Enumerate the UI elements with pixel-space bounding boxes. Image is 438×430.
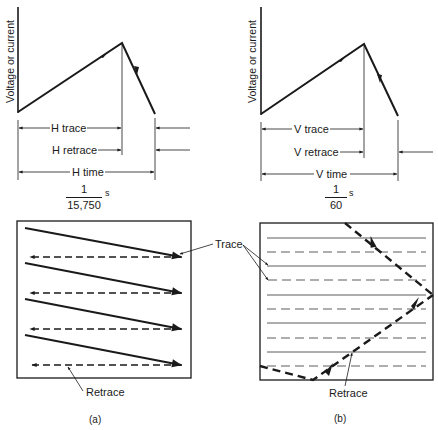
caption-a: (a)	[88, 414, 102, 426]
fraction-bar	[66, 197, 102, 198]
fraction-denominator: 60	[325, 199, 347, 212]
v-trace-label: V trace	[293, 123, 330, 135]
fraction-denominator: 15,750	[66, 199, 102, 212]
v-time-label: V time	[315, 168, 348, 180]
h-retrace-label: H retrace	[51, 144, 98, 156]
panel-b-raster	[260, 223, 433, 386]
panel-a-waveform	[18, 7, 190, 180]
trace-direction-arrow-icon	[100, 52, 108, 58]
panel-b-waveform	[261, 7, 433, 181]
h-period-fraction: 1 15,750	[66, 183, 102, 212]
panel-a-raster	[17, 221, 191, 391]
h-time-label: H time	[71, 166, 105, 178]
v-retrace-label: V retrace	[293, 146, 340, 158]
h-period-unit: s	[105, 188, 110, 198]
y-axis-label: Voltage or current	[4, 20, 16, 103]
scanning-diagram	[0, 0, 438, 430]
v-period-unit: s	[349, 188, 354, 198]
screen-frame	[17, 221, 191, 378]
h-trace-label: H trace	[50, 122, 87, 134]
caption-b: (b)	[333, 413, 347, 425]
fraction-bar	[325, 197, 347, 198]
fraction-numerator: 1	[66, 183, 102, 196]
retrace-label-a: Retrace	[85, 386, 126, 398]
sawtooth-waveform	[18, 43, 155, 114]
v-period-fraction: 1 60	[325, 183, 347, 212]
trace-direction-arrow-icon	[338, 56, 346, 62]
fraction-numerator: 1	[325, 183, 347, 196]
trace-label: Trace	[214, 238, 244, 250]
retrace-label-b: Retrace	[328, 387, 369, 399]
y-axis-label: Voltage or current	[246, 20, 258, 103]
retrace-arrow-icon	[411, 297, 419, 310]
sawtooth-waveform	[261, 44, 398, 116]
